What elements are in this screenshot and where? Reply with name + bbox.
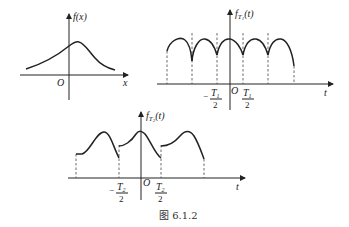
arch xyxy=(268,39,294,66)
figure-svg: f(x) x O fT1(t) t O − T1 2 T1 2 xyxy=(0,0,349,227)
minus-sign: − xyxy=(109,185,114,195)
panel-fT2: fT2(t) t O − T2 2 T2 2 xyxy=(68,110,245,204)
fT2-xlabel: t xyxy=(236,181,239,192)
fT2-ylabel: fT2(t) xyxy=(146,110,165,123)
tick-den: 2 xyxy=(119,194,124,204)
panel-fx: f(x) x O xyxy=(20,11,128,100)
tick-pos-T1: T1 xyxy=(243,87,252,99)
fT1-xlabel: t xyxy=(324,87,327,98)
fT1-ylabel: fT1(t) xyxy=(235,8,254,21)
tick-neg-T2: T2 xyxy=(117,181,126,193)
fx-curve xyxy=(26,42,115,70)
figure-caption: 图 6.1.2 xyxy=(159,210,198,221)
panel-fT1: fT1(t) t O − T1 2 T1 2 xyxy=(157,8,333,110)
tick-den: 2 xyxy=(245,100,250,110)
fx-origin: O xyxy=(57,77,64,88)
fx-xlabel: x xyxy=(122,77,128,88)
tick-den: 2 xyxy=(158,194,163,204)
figure: f(x) x O fT1(t) t O − T1 2 T1 2 xyxy=(0,0,349,227)
fT2-origin: O xyxy=(143,177,150,188)
fT2-period xyxy=(161,132,204,160)
tick-den: 2 xyxy=(213,100,218,110)
tick-pos-T2: T2 xyxy=(156,181,165,193)
tick-neg-T1: T1 xyxy=(211,87,220,99)
fT2-period xyxy=(119,131,161,158)
fT1-origin: O xyxy=(231,85,238,96)
arch xyxy=(167,38,192,61)
arch xyxy=(243,39,268,55)
minus-sign: − xyxy=(203,91,208,101)
fx-ylabel: f(x) xyxy=(73,11,88,23)
arch xyxy=(192,39,217,61)
fT2-period xyxy=(76,132,119,158)
